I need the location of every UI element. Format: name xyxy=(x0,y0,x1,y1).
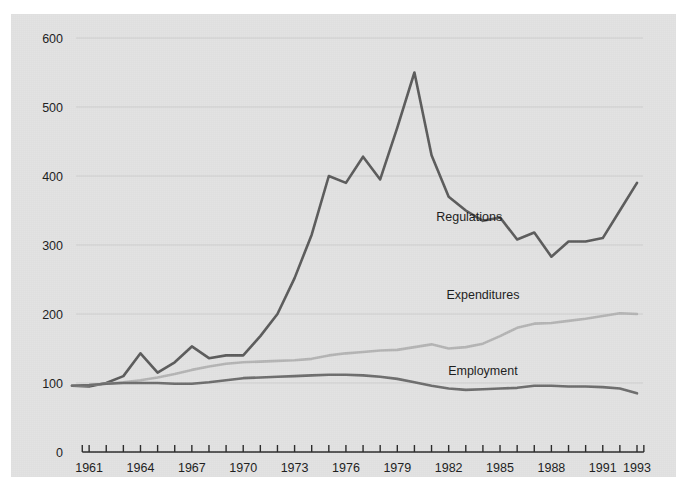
series-label-regulations: Regulations xyxy=(436,210,502,224)
y-tick-label-300: 300 xyxy=(42,239,63,253)
gridlines-group xyxy=(76,38,643,383)
x-axis-tick-labels: 1961196419671970197319761979198219851988… xyxy=(75,461,651,475)
data-series-lines xyxy=(72,73,637,394)
x-tick-label-1993: 1993 xyxy=(623,461,651,475)
y-tick-label-200: 200 xyxy=(42,308,63,322)
caption-bottom xyxy=(0,487,686,499)
y-tick-label-600: 600 xyxy=(42,32,63,46)
y-tick-label-100: 100 xyxy=(42,377,63,391)
line-chart-svg: 6005004003002001000 19611964196719701973… xyxy=(11,14,676,477)
y-axis-tick-labels: 6005004003002001000 xyxy=(42,32,63,460)
x-tick-label-1973: 1973 xyxy=(281,461,309,475)
x-axis xyxy=(82,445,644,452)
y-tick-label-400: 400 xyxy=(42,170,63,184)
x-tick-label-1961: 1961 xyxy=(75,461,103,475)
series-annotations: RegulationsExpendituresEmployment xyxy=(436,210,519,378)
series-label-employment: Employment xyxy=(448,364,518,378)
x-tick-label-1982: 1982 xyxy=(435,461,463,475)
chart-figure-panel: 6005004003002001000 19611964196719701973… xyxy=(11,14,676,477)
series-label-expenditures: Expenditures xyxy=(446,288,519,302)
x-tick-label-1976: 1976 xyxy=(332,461,360,475)
x-tick-label-1988: 1988 xyxy=(537,461,565,475)
x-tick-label-1979: 1979 xyxy=(383,461,411,475)
x-tick-label-1991: 1991 xyxy=(589,461,617,475)
x-tick-label-1970: 1970 xyxy=(229,461,257,475)
caption-top xyxy=(0,0,686,12)
y-tick-label-0: 0 xyxy=(56,446,63,460)
series-line-regulations xyxy=(72,73,637,387)
x-tick-label-1985: 1985 xyxy=(486,461,514,475)
x-tick-label-1964: 1964 xyxy=(127,461,155,475)
y-tick-label-500: 500 xyxy=(42,101,63,115)
x-tick-label-1967: 1967 xyxy=(178,461,206,475)
